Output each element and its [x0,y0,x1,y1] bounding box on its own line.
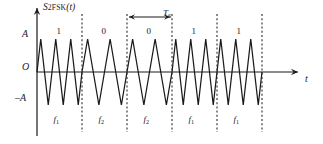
bit-label-4: 1 [192,27,197,36]
y-axis-label-A: A [22,29,28,39]
y-axis-label-negA: –A [15,93,26,103]
frequency-label-2: f2 [99,115,105,125]
bit-label-3: 0 [147,27,152,36]
frequency-label-3: f2 [144,115,150,125]
y-axis-label-O: O [22,62,29,72]
x-axis-label-t: t [305,74,308,84]
symbol-period-label: TS [163,9,171,19]
bit-label-2: 0 [102,27,107,36]
frequency-label-1: f1 [54,115,60,125]
bit-label-1: 1 [57,27,62,36]
waveform-canvas [0,0,323,144]
frequency-label-5: f1 [234,115,240,125]
y-axis-signal-label: S2FSK(t) [43,3,75,13]
frequency-label-4: f1 [189,115,195,125]
bit-label-5: 1 [237,27,242,36]
fsk-waveform-figure: S2FSK(t) A O –A t TS 10011 f1f2f2f1f1 [0,0,323,144]
